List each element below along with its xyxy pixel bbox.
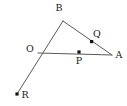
point-label-R: R [21,89,29,100]
segment-B-R [17,21,63,94]
point-marker-R [15,92,18,95]
point-marker-Q [90,40,93,43]
point-label-A: A [115,49,123,60]
point-label-group: B O A Q P R [21,2,122,100]
geometry-figure: B O A Q P R [0,0,127,106]
point-label-O: O [26,43,34,54]
point-label-P: P [76,55,83,66]
point-marker-P [77,50,80,53]
point-label-Q: Q [93,28,101,39]
segment-B-A [63,21,112,55]
geometry-canvas: B O A Q P R [0,0,127,106]
point-label-B: B [56,2,63,13]
